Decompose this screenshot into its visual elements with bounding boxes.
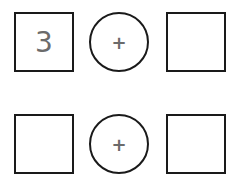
right-answer-box[interactable] xyxy=(166,12,226,72)
plus-operator-circle: + xyxy=(89,12,149,72)
left-answer-box[interactable] xyxy=(14,114,74,174)
right-answer-box[interactable] xyxy=(166,114,226,174)
plus-operator-circle: + xyxy=(89,114,149,174)
left-answer-box[interactable]: 3 xyxy=(14,12,74,72)
